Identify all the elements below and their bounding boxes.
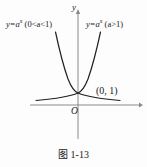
y-axis-label: y [72,3,76,12]
right-curve-exponent: x [100,18,103,24]
left-curve-exponent: x [20,18,23,24]
curve-increasing-exponential [36,32,101,101]
right-curve-condition: (a>1) [105,19,123,29]
y-axis-arrow-icon [76,9,80,14]
right-curve-base: y=a [86,19,100,29]
intersection-point-label: (0, 1) [96,86,118,96]
right-curve-equation-label: y=ax (a>1) [86,18,123,28]
x-axis-arrow-icon [139,103,143,108]
left-curve-condition: (0<a<1) [25,19,53,29]
left-curve-base: y=a [6,19,20,29]
left-curve-equation-label: y=ax (0<a<1) [6,18,52,28]
figure-caption: 图 1-13 [0,146,147,161]
exponential-function-figure: y=ax (0<a<1) y=ax (a>1) y O (0, 1) 图 1-1… [0,0,147,167]
origin-label: O [71,107,78,117]
